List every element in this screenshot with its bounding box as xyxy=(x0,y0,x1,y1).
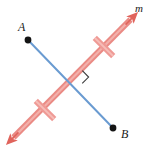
point-b-dot xyxy=(110,125,117,132)
geometry-figure: A B m xyxy=(0,0,157,149)
right-angle-mark xyxy=(82,71,88,84)
point-a-label: A xyxy=(18,21,25,33)
point-b-label: B xyxy=(121,128,128,140)
line-m-group xyxy=(10,16,134,141)
line-m-highlight xyxy=(14,20,131,138)
line-m-label: m xyxy=(135,2,143,14)
point-a-dot xyxy=(25,37,32,44)
